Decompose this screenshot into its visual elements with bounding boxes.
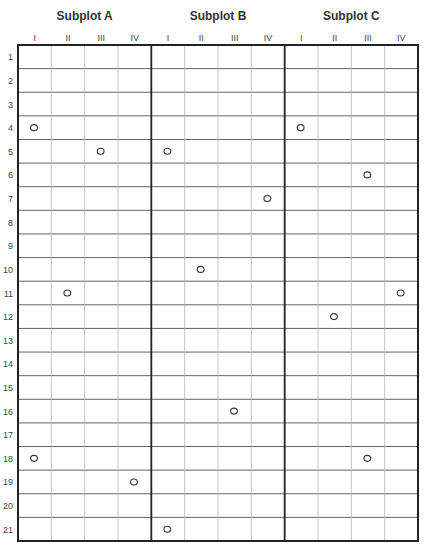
subplot-a-marker-II-11	[64, 290, 71, 296]
subplot-b-column-label-IV: IV	[264, 33, 273, 43]
subplot-c-marker-I-4	[297, 125, 304, 131]
row-label-17: 17	[3, 430, 13, 440]
subplot-b-marker-I-21	[164, 526, 171, 532]
row-label-20: 20	[3, 501, 13, 511]
row-label-7: 7	[8, 194, 13, 204]
subplot-a-marker-I-4	[31, 125, 38, 131]
subplot-b-marker-II-10	[197, 266, 204, 272]
subplot-a-column-label-II: II	[65, 33, 70, 43]
grid-lines	[18, 45, 418, 541]
subplot-a-marker-I-18	[31, 455, 38, 461]
subplot-a-column-label-IV: IV	[130, 33, 139, 43]
row-labels: 123456789101112131415161718192021	[3, 52, 13, 534]
subplot-b-column-label-III: III	[231, 33, 239, 43]
row-label-12: 12	[3, 312, 13, 322]
subplot-c-marker-II-12	[331, 314, 338, 320]
row-label-9: 9	[8, 241, 13, 251]
row-label-11: 11	[4, 289, 13, 299]
subplot-b-column-label-I: I	[167, 33, 170, 43]
subplot-c-marker-IV-11	[397, 290, 404, 296]
column-labels: IIIIIIIVIIIIIIIVIIIIIIIV	[33, 33, 405, 43]
row-label-16: 16	[3, 407, 13, 417]
row-label-13: 13	[3, 336, 13, 346]
subplot-a-column-label-III: III	[98, 33, 106, 43]
subplot-b-marker-III-16	[231, 408, 238, 414]
subplot-b-marker-I-5	[164, 148, 171, 154]
subplot-a-column-label-I: I	[33, 33, 36, 43]
row-label-14: 14	[3, 359, 13, 369]
subplot-c-column-label-II: II	[332, 33, 337, 43]
row-label-10: 10	[3, 265, 13, 275]
subplot-c-title: Subplot C	[323, 9, 380, 23]
subplot-c-marker-III-18	[364, 455, 371, 461]
row-label-2: 2	[8, 76, 13, 86]
row-label-3: 3	[8, 100, 13, 110]
subplot-c-column-label-IV: IV	[397, 33, 406, 43]
row-label-15: 15	[3, 383, 13, 393]
row-label-5: 5	[8, 147, 13, 157]
row-label-6: 6	[8, 170, 13, 180]
subplot-c-column-label-I: I	[300, 33, 303, 43]
subplot-grid-chart: Subplot ASubplot BSubplot C IIIIIIIVIIII…	[0, 0, 426, 549]
subplot-a-marker-IV-19	[131, 479, 138, 485]
row-label-18: 18	[3, 454, 13, 464]
subplot-c-column-label-III: III	[364, 33, 372, 43]
subplot-b-marker-IV-7	[264, 196, 271, 202]
subplot-a-marker-III-5	[97, 148, 104, 154]
row-label-21: 21	[3, 525, 13, 535]
row-label-4: 4	[8, 123, 13, 133]
subplot-b-title: Subplot B	[190, 9, 247, 23]
subplot-a-title: Subplot A	[57, 9, 114, 23]
row-label-1: 1	[8, 52, 13, 62]
row-label-8: 8	[8, 218, 13, 228]
subplot-c-marker-III-6	[364, 172, 371, 178]
subplot-b-column-label-II: II	[199, 33, 204, 43]
row-label-19: 19	[3, 477, 13, 487]
subplot-titles: Subplot ASubplot BSubplot C	[57, 9, 380, 23]
